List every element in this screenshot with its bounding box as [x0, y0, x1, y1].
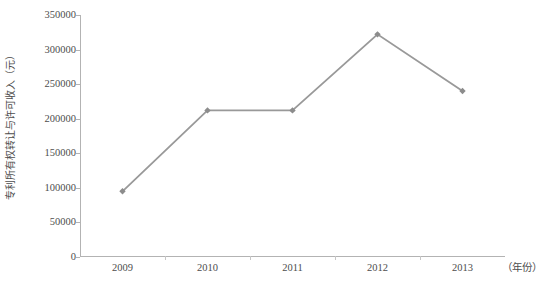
- y-axis-title-text: 专利所有权转让与许可收入（元）: [6, 50, 16, 200]
- y-axis-tick-labels: 0500001000001500002000002500003000003500…: [18, 0, 76, 289]
- y-tick-mark: [76, 222, 80, 223]
- x-tick-mark: [250, 256, 251, 260]
- y-tick-label: 350000: [18, 10, 76, 20]
- y-tick-mark: [76, 119, 80, 120]
- x-tick-mark: [335, 256, 336, 260]
- y-tick-label: 100000: [18, 183, 76, 193]
- y-tick-mark: [76, 84, 80, 85]
- y-tick-label: 150000: [18, 148, 76, 158]
- y-tick-label: 200000: [18, 114, 76, 124]
- y-tick-mark: [76, 188, 80, 189]
- series-line: [80, 15, 505, 257]
- y-tick-label: 250000: [18, 79, 76, 89]
- x-tick-label: 2013: [423, 262, 503, 274]
- x-axis-tick-labels: 20092010201120122013: [80, 262, 505, 282]
- x-axis-unit-label: （年份）: [502, 262, 537, 274]
- x-tick-label: 2009: [83, 262, 163, 274]
- y-tick-label: 0: [18, 252, 76, 262]
- line-chart: 专利所有权转让与许可收入（元） 050000100000150000200000…: [0, 0, 537, 289]
- y-tick-label: 300000: [18, 45, 76, 55]
- x-tick-label: 2010: [168, 262, 248, 274]
- x-tick-mark: [165, 256, 166, 260]
- y-tick-label: 50000: [18, 217, 76, 227]
- x-tick-label: 2012: [338, 262, 418, 274]
- y-tick-mark: [76, 50, 80, 51]
- y-tick-mark: [76, 153, 80, 154]
- y-tick-mark: [76, 257, 80, 258]
- x-tick-label: 2011: [253, 262, 333, 274]
- plot-area: [80, 15, 505, 257]
- y-tick-mark: [76, 15, 80, 16]
- x-tick-mark: [420, 256, 421, 260]
